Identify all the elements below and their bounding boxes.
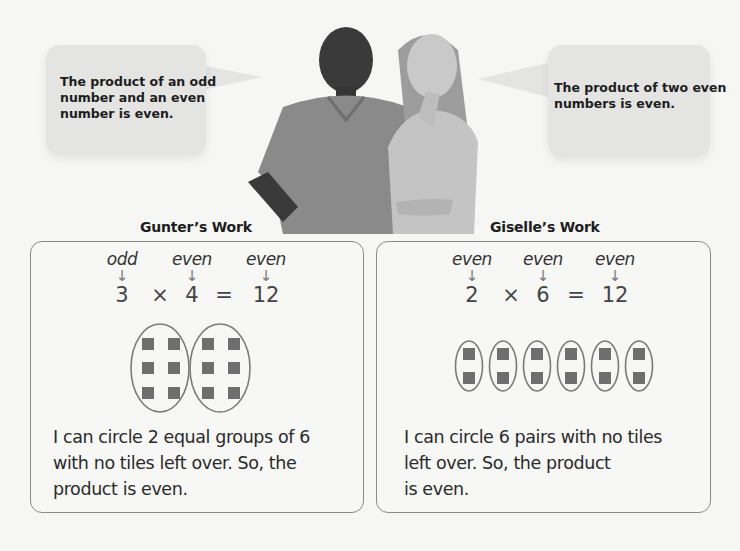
label-even: even	[442, 249, 502, 269]
gunter-work-title: Gunter’s Work	[140, 219, 252, 235]
explanation-line: is even.	[404, 476, 662, 502]
factor-a: 3	[102, 283, 142, 307]
bubble-line: The product of an odd	[60, 74, 216, 90]
bubble-text-giselle: The product of two even numbers is even.	[554, 80, 726, 112]
label-even: even	[513, 249, 573, 269]
tile	[168, 387, 180, 399]
tile	[202, 338, 214, 350]
tile	[168, 338, 180, 350]
tile	[228, 387, 240, 399]
tile	[202, 387, 214, 399]
explanation-line: I can circle 6 pairs with no tiles	[404, 424, 662, 450]
gunter-explanation: I can circle 2 equal groups of 6 with no…	[53, 424, 310, 502]
gunter-tile-model	[125, 318, 257, 418]
tile	[142, 338, 154, 350]
bubble-tail-right	[478, 55, 558, 105]
pair-group	[490, 341, 517, 391]
bubble-line: number is even.	[60, 106, 216, 122]
bubble-line: numbers is even.	[554, 96, 726, 112]
product: 12	[246, 283, 286, 307]
pair-group	[524, 341, 551, 391]
tile	[142, 362, 154, 374]
giselle-explanation: I can circle 6 pairs with no tiles left …	[404, 424, 662, 502]
explanation-line: I can circle 2 equal groups of 6	[53, 424, 310, 450]
label-even: even	[236, 249, 296, 269]
label-even: even	[585, 249, 645, 269]
explanation-line: product is even.	[53, 476, 310, 502]
tile	[228, 362, 240, 374]
group-circle	[131, 324, 189, 412]
label-odd: odd	[92, 249, 152, 269]
pair-group	[626, 341, 653, 391]
equals-sign: =	[556, 283, 596, 307]
bubble-text-gunter: The product of an odd number and an even…	[60, 74, 216, 122]
tile	[228, 338, 240, 350]
giselle-tile-model	[452, 338, 666, 396]
tile	[168, 362, 180, 374]
product: 12	[595, 283, 635, 307]
label-even: even	[162, 249, 222, 269]
group-circle	[190, 324, 250, 412]
giselle-work-title: Giselle’s Work	[490, 219, 600, 235]
explanation-line: left over. So, the product	[404, 450, 662, 476]
factor-a: 2	[452, 283, 492, 307]
pair-group	[456, 341, 483, 391]
explanation-line: with no tiles left over. So, the	[53, 450, 310, 476]
bubble-line: number and an even	[60, 90, 216, 106]
pair-group	[558, 341, 585, 391]
students-photo	[228, 22, 486, 234]
tile	[202, 362, 214, 374]
bubble-line: The product of two even	[554, 80, 726, 96]
pair-group	[592, 341, 619, 391]
equals-sign: =	[204, 283, 244, 307]
tile	[142, 387, 154, 399]
